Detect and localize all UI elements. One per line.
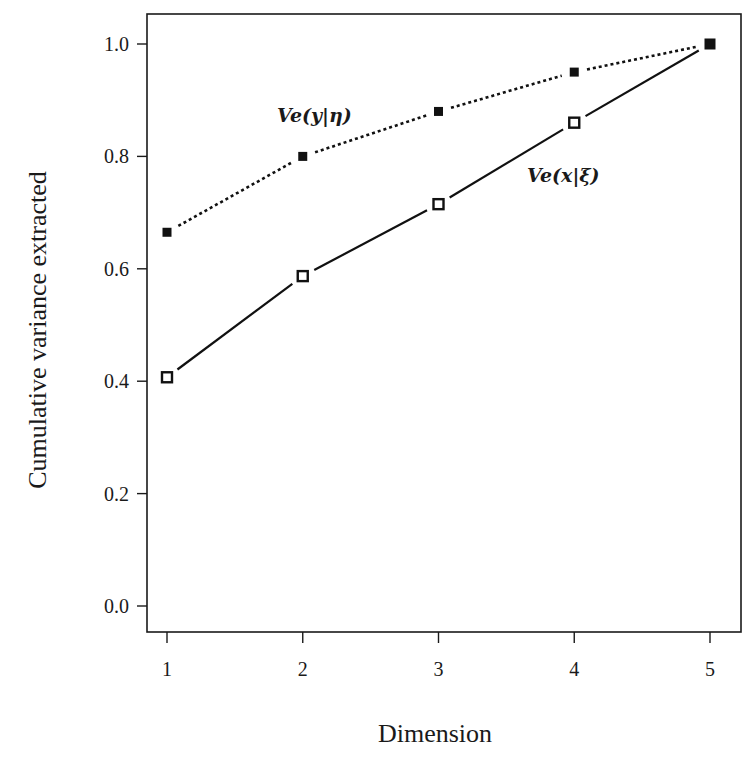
y-axis: 0.00.20.40.60.81.0: [104, 33, 147, 617]
x-axis-title: Dimension: [378, 719, 492, 748]
filled-square-marker: [705, 39, 716, 50]
series-label-ve-x-xi: Ve(x|ξ): [527, 164, 600, 187]
series-segment: [451, 76, 562, 108]
y-tick-label: 0.8: [104, 145, 129, 167]
open-square-marker: [298, 271, 308, 281]
open-square-marker: [434, 199, 444, 209]
y-tick-label: 1.0: [104, 33, 129, 55]
x-axis: 12345: [162, 632, 715, 680]
line-chart: 0.00.20.40.60.81.0 12345 Ve(y|η) Ve(x|ξ)…: [0, 0, 747, 758]
y-tick-label: 0.0: [104, 595, 129, 617]
series-segment: [585, 51, 698, 117]
plot-frame: [147, 14, 741, 632]
series-segment: [587, 47, 697, 70]
series-segment: [177, 284, 292, 370]
y-tick-label: 0.4: [104, 370, 129, 392]
filled-square-marker: [570, 68, 579, 77]
filled-square-marker: [163, 228, 172, 237]
filled-square-marker: [434, 107, 443, 116]
series-segment: [314, 210, 427, 270]
open-square-marker: [569, 118, 579, 128]
y-tick-label: 0.2: [104, 483, 129, 505]
series-segment: [178, 163, 291, 226]
open-square-marker: [162, 372, 172, 382]
series-layer: [162, 39, 716, 383]
x-tick-label: 2: [298, 658, 308, 680]
series-1: [162, 51, 699, 383]
x-tick-label: 3: [434, 658, 444, 680]
x-tick-label: 4: [569, 658, 579, 680]
y-tick-label: 0.6: [104, 258, 129, 280]
series-label-ve-y-eta: Ve(y|η): [277, 104, 352, 127]
y-axis-title: Cumulative variance extracted: [23, 171, 52, 489]
x-tick-label: 5: [705, 658, 715, 680]
filled-square-marker: [298, 152, 307, 161]
x-tick-label: 1: [162, 658, 172, 680]
